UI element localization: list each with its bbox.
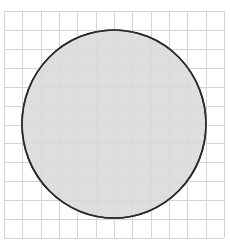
grid-figure	[0, 0, 230, 246]
